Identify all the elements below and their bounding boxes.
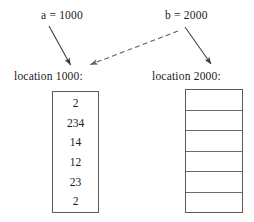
memory-cell: 2 xyxy=(53,192,98,212)
memory-cell xyxy=(186,111,242,132)
arrow-b-to-location-2000 xyxy=(185,27,211,64)
memory-cell: 14 xyxy=(53,133,98,153)
memory-cell-list: 2 234 14 12 23 2 xyxy=(53,92,98,212)
pointer-label-b: b = 2000 xyxy=(165,10,208,22)
memory-block-2000 xyxy=(185,89,243,213)
memory-cell-list xyxy=(186,90,242,212)
memory-block-caption-2000: location 2000: xyxy=(152,71,221,83)
memory-cell: 23 xyxy=(53,173,98,193)
memory-cell xyxy=(186,172,242,193)
memory-cell xyxy=(186,152,242,173)
memory-cell xyxy=(186,131,242,152)
memory-block-caption-1000: location 1000: xyxy=(14,71,83,83)
memory-cell: 2 xyxy=(53,94,98,114)
memory-cell: 12 xyxy=(53,153,98,173)
memory-block-1000: 2 234 14 12 23 2 xyxy=(52,91,99,213)
pointer-label-a: a = 1000 xyxy=(41,10,83,22)
arrow-a-to-location-1000 xyxy=(49,26,71,65)
memory-cell: 234 xyxy=(53,114,98,134)
memory-cell xyxy=(186,193,242,213)
memory-cell xyxy=(186,90,242,111)
pointer-memory-diagram: a = 1000 b = 2000 location 1000: locatio… xyxy=(0,0,254,222)
arrow-b-to-location-1000-dashed xyxy=(91,31,179,65)
